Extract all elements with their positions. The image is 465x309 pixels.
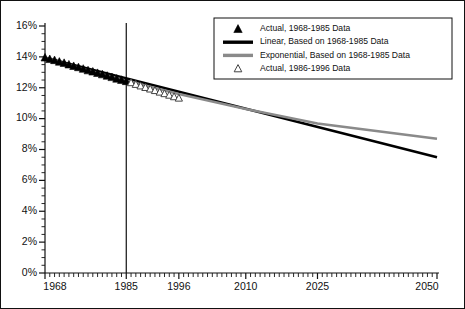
x-tick-label: 2010	[234, 280, 258, 292]
legend-entry-label: Exponential, Based on 1968-1985 Data	[260, 50, 410, 60]
x-tick-label: 1985	[115, 280, 139, 292]
legend-entry-label: Linear, Based on 1968-1985 Data	[260, 36, 389, 46]
y-tick-label: 2%	[22, 235, 37, 247]
x-axis-ticks	[45, 273, 437, 279]
y-axis-ticks	[39, 26, 45, 273]
y-axis-labels: 0%2%4%6%8%10%12%14%16%	[16, 19, 37, 278]
y-tick-label: 4%	[22, 204, 37, 216]
x-tick-label: 1996	[167, 280, 191, 292]
y-tick-label: 12%	[16, 81, 37, 93]
x-tick-label: 2050	[415, 280, 439, 292]
x-tick-label: 1968	[43, 280, 67, 292]
x-axis-labels: 196819851996201020252050	[43, 280, 439, 292]
chart-legend: Actual, 1968-1985 DataLinear, Based on 1…	[214, 18, 452, 79]
y-tick-label: 10%	[16, 111, 37, 123]
legend-entry-label: Actual, 1968-1985 Data	[260, 23, 351, 33]
chart-svg: 0%2%4%6%8%10%12%14%16% 19681985199620102…	[1, 1, 465, 309]
y-tick-label: 6%	[22, 173, 37, 185]
legend-entry-label: Actual, 1986-1996 Data	[260, 63, 351, 73]
x-tick-label: 2025	[306, 280, 330, 292]
y-tick-label: 16%	[16, 19, 37, 31]
y-tick-label: 0%	[22, 266, 37, 278]
y-tick-label: 14%	[16, 50, 37, 62]
series-markers	[41, 53, 130, 84]
chart-frame: 0%2%4%6%8%10%12%14%16% 19681985199620102…	[0, 0, 465, 309]
y-tick-label: 8%	[22, 142, 37, 154]
chart-canvas: 0%2%4%6%8%10%12%14%16% 19681985199620102…	[1, 1, 465, 309]
